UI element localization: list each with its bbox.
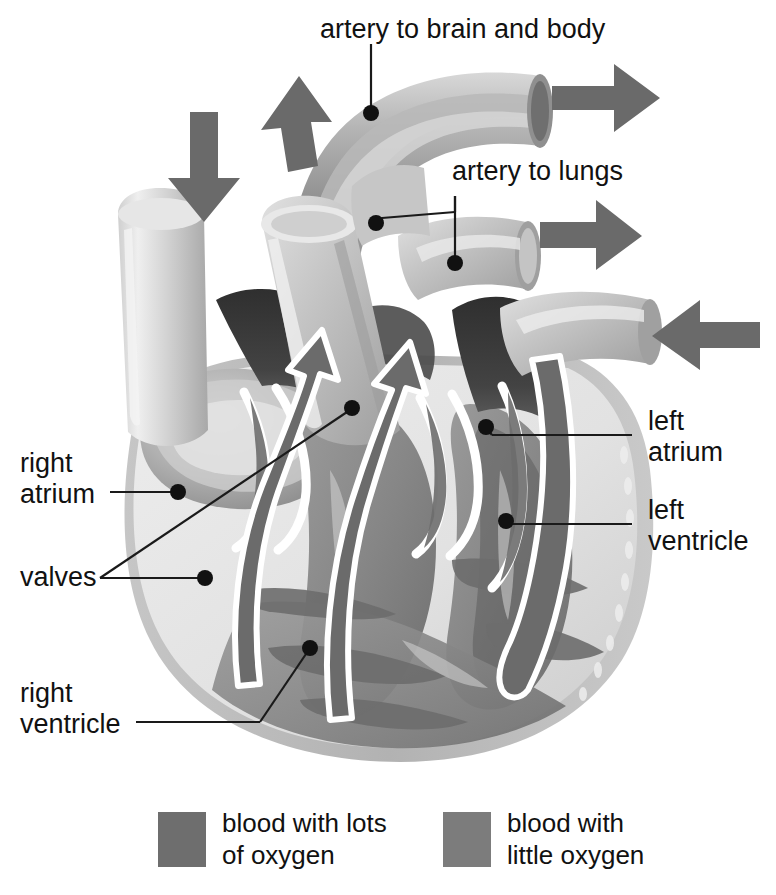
heart-diagram-figure: artery to brain and body artery to lungs… <box>0 0 776 895</box>
anchor-pulmonary-trunk <box>368 215 384 231</box>
label-left-atrium-line1: left <box>648 406 684 437</box>
legend-label-deoxygenated-line1: blood with <box>507 808 624 838</box>
anchor-right-ventricle <box>302 640 318 656</box>
anchor-aorta <box>363 105 379 121</box>
anchor-valve-upper <box>344 400 360 416</box>
right-arrow-icon-top <box>552 64 660 132</box>
label-right-ventricle-line1: right <box>20 678 73 709</box>
label-valves: valves <box>20 562 97 593</box>
anchor-left-atrium <box>478 419 494 435</box>
label-left-ventricle-line2: ventricle <box>648 526 749 557</box>
anchor-left-ventricle <box>498 513 514 529</box>
label-right-atrium-line2: atrium <box>20 479 95 510</box>
label-right-atrium-line1: right <box>20 448 73 479</box>
label-artery-to-brain-and-body: artery to brain and body <box>320 14 605 45</box>
label-left-ventricle-line1: left <box>648 495 684 526</box>
label-right-ventricle-line2: ventricle <box>20 709 121 740</box>
legend-swatch-oxygenated <box>158 812 206 867</box>
anchor-valve-lower <box>197 570 213 586</box>
label-left-atrium-line2: atrium <box>648 437 723 468</box>
legend-label-oxygenated-line1: blood with lots <box>222 808 387 838</box>
right-arrow-icon-mid <box>540 200 642 270</box>
vena-cava-vessel <box>118 188 208 446</box>
anchor-right-atrium <box>170 484 186 500</box>
anchor-pulmonary-artery <box>447 255 463 271</box>
legend-label-oxygenated-line2: of oxygen <box>222 840 335 870</box>
legend-label-deoxygenated-line2: little oxygen <box>507 840 644 870</box>
label-artery-to-lungs: artery to lungs <box>452 156 623 187</box>
legend-swatch-deoxygenated <box>443 812 491 867</box>
left-arrow-icon <box>652 300 760 370</box>
